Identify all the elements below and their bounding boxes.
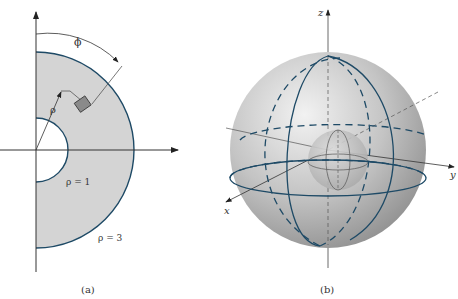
panel-a: ϕ ρ ρ = 1 ρ = 3 (a): [0, 12, 178, 295]
inner-radius-label: ρ = 1: [66, 177, 90, 187]
y-label: y: [449, 169, 456, 180]
outer-radius-label: ρ = 3: [98, 233, 123, 243]
x-label: x: [224, 205, 230, 216]
phi-label: ϕ: [74, 36, 82, 49]
caption-a: (a): [81, 284, 95, 295]
caption-b: (b): [320, 284, 334, 295]
panel-b: z y x (b): [224, 7, 456, 295]
rho-label: ρ: [50, 104, 56, 115]
z-label: z: [317, 7, 324, 18]
figure: ϕ ρ ρ = 1 ρ = 3 (a) z y x: [0, 0, 458, 299]
